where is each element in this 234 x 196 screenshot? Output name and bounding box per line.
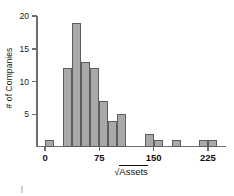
y-axis-tick-label: 5	[24, 109, 29, 119]
y-axis-tick-label: 15	[20, 44, 29, 54]
x-axis-tick-label: 75	[94, 152, 105, 163]
histogram-bar	[63, 68, 72, 147]
histogram-bar	[199, 140, 208, 147]
y-axis-tick-label: 10	[20, 77, 29, 87]
x-axis-tick-label: 0	[42, 152, 47, 163]
y-axis-tick: 10	[32, 81, 37, 83]
histogram-bar	[208, 140, 217, 147]
y-axis-tick: 15	[32, 48, 37, 50]
histogram-bar	[172, 140, 181, 147]
y-axis-tick: 5	[32, 114, 37, 116]
histogram-bar	[108, 121, 117, 147]
y-axis-title-text: # of Companies	[4, 48, 14, 109]
x-axis-title-text: Assets	[119, 165, 148, 177]
y-axis-title: # of Companies	[2, 18, 16, 138]
scan-artifact	[21, 186, 23, 193]
histogram-bar	[45, 140, 54, 147]
x-axis-title: √Assets	[36, 166, 226, 177]
histogram-bar	[117, 114, 126, 147]
y-axis-tick-label: 20	[20, 11, 29, 21]
y-axis-tick: 20	[32, 15, 37, 17]
x-axis-tick-label: 150	[146, 152, 162, 163]
histogram-bar	[81, 62, 90, 147]
histogram-bar	[99, 101, 108, 147]
histogram-bar	[145, 134, 154, 147]
histogram-bar	[90, 68, 99, 147]
plot-area: 5101520 075150225	[36, 16, 226, 147]
histogram-figure: # of Companies 5101520 075150225 √Assets	[0, 0, 234, 196]
histogram-bar	[154, 140, 163, 147]
x-axis-tick-label: 225	[200, 152, 216, 163]
histogram-bar	[72, 23, 81, 147]
